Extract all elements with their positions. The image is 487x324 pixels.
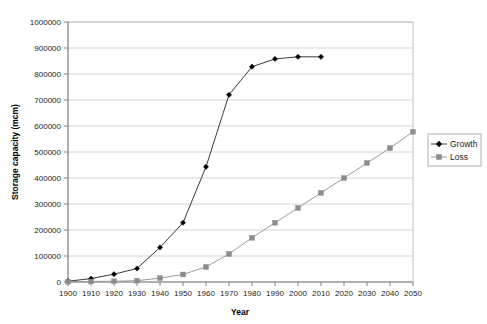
y-tick-label: 600000 <box>34 122 61 131</box>
y-tick-label: 700000 <box>34 96 61 105</box>
x-tick-label: 1900 <box>59 289 77 298</box>
x-tick-label: 1990 <box>266 289 284 298</box>
y-tick-label: 100000 <box>34 252 61 261</box>
y-tick-label: 800000 <box>34 70 61 79</box>
x-tick-label: 1910 <box>82 289 100 298</box>
data-point-marker <box>365 161 370 166</box>
y-tick-label: 200000 <box>34 226 61 235</box>
data-point-marker <box>342 176 347 181</box>
x-tick-label: 2040 <box>381 289 399 298</box>
data-point-marker <box>89 279 94 284</box>
x-tick-label: 2000 <box>289 289 307 298</box>
data-point-marker <box>204 265 209 270</box>
line-chart: 1000000 900000 800000 700000 600000 5000… <box>0 0 487 324</box>
x-tick-label: 2030 <box>358 289 376 298</box>
data-point-marker <box>411 129 416 134</box>
x-tick-label: 1930 <box>128 289 146 298</box>
x-tick-label: 1940 <box>151 289 169 298</box>
data-point-marker <box>296 206 301 211</box>
y-tick-label: 900000 <box>34 44 61 53</box>
legend-label-loss: Loss <box>450 152 468 162</box>
data-point-marker <box>181 272 186 277</box>
y-tick-label: 500000 <box>34 148 61 157</box>
data-point-marker <box>388 146 393 151</box>
x-tick-label: 1920 <box>105 289 123 298</box>
x-tick-label: 1950 <box>174 289 192 298</box>
chart-legend: Growth Loss <box>428 134 481 166</box>
chart-container: 1000000 900000 800000 700000 600000 5000… <box>0 0 487 324</box>
x-axis-title: Year <box>231 307 250 317</box>
y-axis-title: Storage capacity (mcm) <box>10 104 20 200</box>
chart-background <box>0 0 487 324</box>
data-point-marker <box>135 278 140 283</box>
data-point-marker <box>319 190 324 195</box>
square-marker-icon <box>437 155 442 160</box>
y-tick-label: 0 <box>57 278 62 287</box>
x-tick-label: 2020 <box>335 289 353 298</box>
data-point-marker <box>158 276 163 281</box>
data-point-marker <box>66 279 71 284</box>
x-tick-label: 2050 <box>404 289 422 298</box>
x-tick-label: 1970 <box>220 289 238 298</box>
x-tick-label: 1960 <box>197 289 215 298</box>
data-point-marker <box>112 279 117 284</box>
x-tick-label: 1980 <box>243 289 261 298</box>
y-tick-label: 1000000 <box>30 18 62 27</box>
legend-label-growth: Growth <box>450 139 478 149</box>
data-point-marker <box>273 220 278 225</box>
x-tick-label: 2010 <box>312 289 330 298</box>
y-tick-label: 400000 <box>34 174 61 183</box>
data-point-marker <box>250 235 255 240</box>
y-tick-label: 300000 <box>34 200 61 209</box>
data-point-marker <box>227 252 232 257</box>
